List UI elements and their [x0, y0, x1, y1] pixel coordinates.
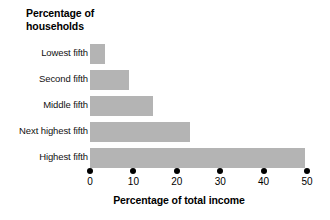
- tick-dot-marker-icon: [174, 168, 180, 174]
- bar-highest-fifth: [90, 148, 305, 168]
- bar-row: Next highest fifth: [0, 122, 330, 142]
- tick-dot-marker-icon: [87, 168, 93, 174]
- x-tick-label: 0: [74, 176, 106, 188]
- category-label-highest-fifth: Highest fifth: [0, 151, 88, 163]
- x-tick-label: 50: [291, 176, 323, 188]
- x-tick-label: 10: [117, 176, 149, 188]
- bar-row: Second fifth: [0, 70, 330, 90]
- bar-row: Lowest fifth: [0, 44, 330, 64]
- bar-chart: Percentage of households Lowest fifth Se…: [0, 0, 330, 220]
- category-label-lowest-fifth: Lowest fifth: [0, 47, 88, 59]
- category-label-second-fifth: Second fifth: [0, 73, 88, 85]
- x-axis-title: Percentage of total income: [0, 194, 330, 206]
- bar-second-fifth: [90, 70, 129, 90]
- tick-dot-marker-icon: [261, 168, 267, 174]
- category-label-middle-fifth: Middle fifth: [0, 99, 88, 111]
- bar-row: Middle fifth: [0, 96, 330, 116]
- x-tick-label: 40: [248, 176, 280, 188]
- bar-row: Highest fifth: [0, 148, 330, 168]
- tick-dot-marker-icon: [217, 168, 223, 174]
- plot-area: Lowest fifth Second fifth Middle fifth N…: [0, 40, 330, 172]
- chart-title: Percentage of households: [26, 7, 176, 32]
- bar-next-highest-fifth: [90, 122, 190, 142]
- category-label-next-highest-fifth: Next highest fifth: [0, 125, 88, 137]
- bar-middle-fifth: [90, 96, 153, 116]
- tick-dot-marker-icon: [130, 168, 136, 174]
- bar-lowest-fifth: [90, 44, 105, 64]
- x-tick-label: 30: [204, 176, 236, 188]
- x-tick-label: 20: [161, 176, 193, 188]
- tick-dot-marker-icon: [304, 168, 310, 174]
